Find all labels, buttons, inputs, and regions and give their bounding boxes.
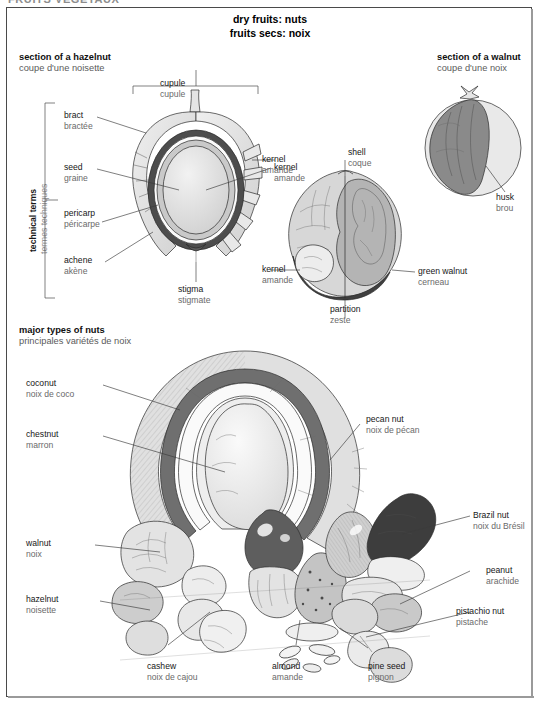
label-walnut-kernel-bottom-en: kernel: [262, 264, 285, 274]
label-chestnut-en: chestnut: [26, 429, 59, 439]
label-bract-fr: bractée: [64, 121, 93, 131]
label-peanut-en: peanut: [486, 565, 512, 575]
label-shell-fr: coque: [348, 158, 371, 168]
technical-terms-bracket: [45, 103, 58, 298]
label-almond-fr: amande: [272, 672, 303, 682]
label-partition-en: partition: [330, 304, 361, 314]
label-stigma-en: stigma: [178, 284, 203, 294]
label-seed-fr: graine: [64, 173, 88, 183]
walnut-husk-illustration: [425, 86, 521, 196]
nut-cluster-illustration: [112, 494, 436, 683]
label-almond-en: almond: [272, 661, 300, 671]
label-hazelnut-type-en: hazelnut: [26, 594, 59, 604]
label-pine-seed-en: pine seed: [368, 661, 405, 671]
label-husk-en: husk: [496, 192, 514, 202]
label-brazil-nut-en: Brazil nut: [473, 510, 509, 520]
label-pecan-nut-en: pecan nut: [366, 414, 404, 424]
plate-root: FRUITS VEGETAUX dry fruits: nuts fruits …: [0, 0, 540, 716]
label-partition-fr: zeste: [330, 315, 351, 325]
label-pistachio-nut-en: pistachio nut: [456, 606, 504, 616]
label-achene-fr: akène: [64, 266, 87, 276]
label-walnut-kernel-top-fr: amande: [262, 165, 293, 175]
label-pine-seed-fr: pignon: [368, 672, 394, 682]
label-green-walnut-fr: cerneau: [418, 277, 449, 287]
label-cashew-en: cashew: [147, 661, 176, 671]
label-cupule-fr: cupule: [160, 89, 185, 99]
label-achene-en: achene: [64, 255, 92, 265]
label-husk-fr: brou: [496, 203, 513, 213]
label-coconut-en: coconut: [26, 378, 56, 388]
label-walnut-kernel-top-en: kernel: [262, 154, 285, 164]
label-brazil-nut-fr: noix du Brésil: [473, 521, 525, 531]
label-chestnut-fr: marron: [26, 440, 53, 450]
label-pecan-nut-fr: noix de pécan: [366, 425, 420, 435]
label-shell-en: shell: [348, 147, 366, 157]
hazelnut-illustration: [133, 78, 262, 262]
label-pericarp-fr: péricarpe: [64, 219, 100, 229]
label-walnut-type-fr: noix: [26, 549, 42, 559]
label-pericarp-en: pericarp: [64, 208, 95, 218]
label-bract-en: bract: [64, 110, 83, 120]
label-green-walnut-en: green walnut: [418, 266, 467, 276]
label-coconut-fr: noix de coco: [26, 389, 74, 399]
walnut-open-illustration: [289, 171, 402, 301]
coconut-illustration: [130, 351, 367, 551]
label-peanut-fr: arachide: [486, 576, 519, 586]
label-seed-en: seed: [64, 162, 83, 172]
label-stigma-fr: stigmate: [178, 295, 210, 305]
label-pistachio-nut-fr: pistache: [456, 617, 488, 627]
label-cashew-fr: noix de cajou: [147, 672, 198, 682]
label-walnut-type-en: walnut: [26, 538, 51, 548]
label-hazelnut-type-fr: noisette: [26, 605, 56, 615]
label-walnut-kernel-bottom-fr: amande: [262, 275, 293, 285]
label-cupule-en: cupule: [160, 78, 185, 88]
